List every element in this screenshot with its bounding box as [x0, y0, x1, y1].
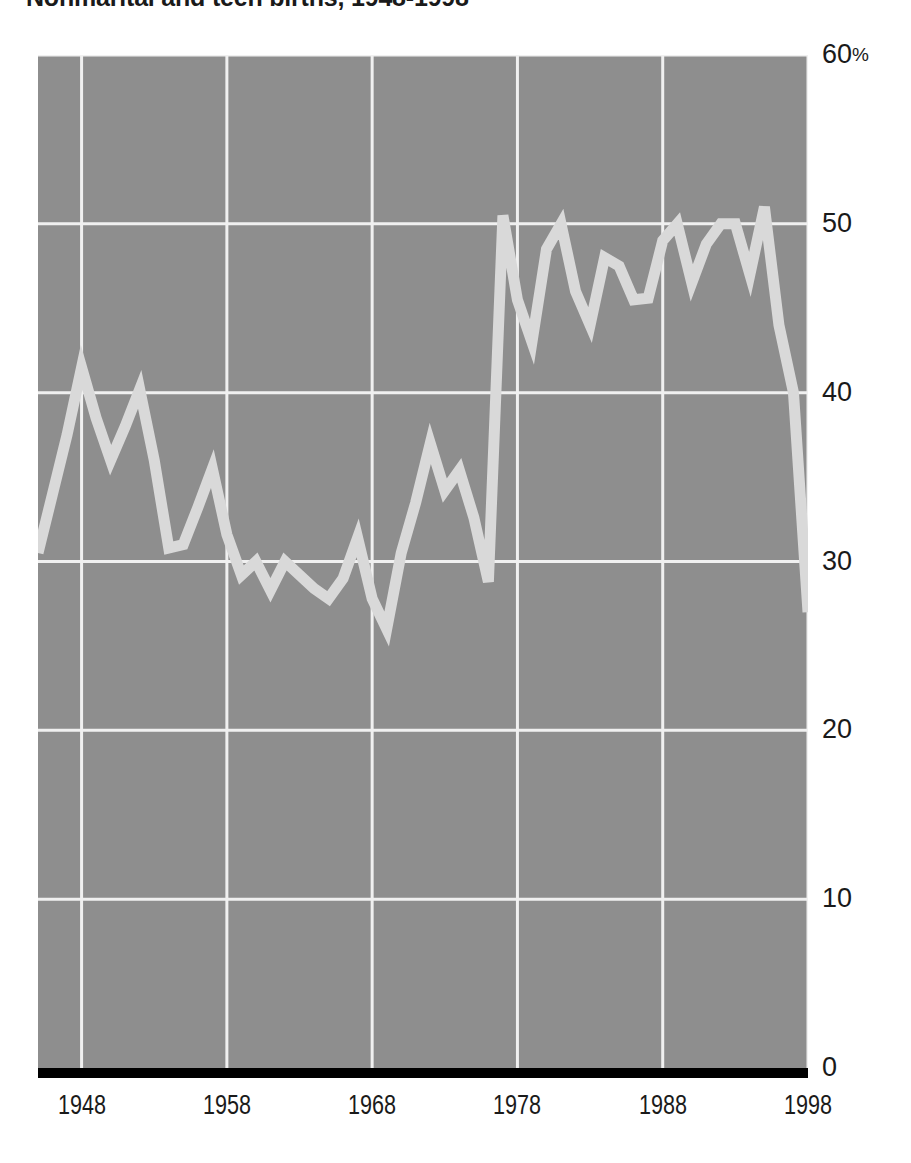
y-axis-tick-label: 20	[822, 716, 852, 743]
grid-lines	[38, 55, 808, 1068]
y-axis-tick-value: 0	[822, 1052, 837, 1082]
x-axis-tick-label: 1948	[58, 1092, 106, 1119]
y-axis-tick-value: 10	[822, 883, 852, 913]
y-axis-tick-label: 30	[822, 548, 852, 575]
y-axis-tick-value: 40	[822, 377, 852, 407]
plot-area	[38, 55, 808, 1068]
x-axis-baseline	[38, 1068, 808, 1078]
y-axis-tick-label: 0	[822, 1054, 837, 1081]
chart-figure: Nonmarital and teen births, 1948-1998 60…	[0, 0, 911, 1163]
y-axis-tick-label: 60%	[822, 41, 869, 68]
y-axis-unit-symbol: %	[852, 44, 869, 65]
y-axis-tick-label: 40	[822, 379, 852, 406]
y-axis-tick-value: 50	[822, 208, 852, 238]
y-axis-tick-value: 20	[822, 714, 852, 744]
page-title: Nonmarital and teen births, 1948-1998	[26, 0, 886, 10]
plot-svg	[38, 55, 808, 1068]
y-axis-tick-value: 30	[822, 546, 852, 576]
x-axis-tick-label: 1958	[203, 1092, 251, 1119]
x-axis-tick-label: 1988	[639, 1092, 687, 1119]
y-axis-tick-label: 10	[822, 885, 852, 912]
y-axis-tick-label: 50	[822, 210, 852, 237]
x-axis-tick-label: 1978	[493, 1092, 541, 1119]
x-axis-tick-label: 1968	[348, 1092, 396, 1119]
data-series-line	[38, 207, 808, 629]
y-axis-tick-value: 60	[822, 39, 852, 69]
series-lines	[38, 207, 808, 629]
x-axis-tick-label: 1998	[784, 1092, 832, 1119]
